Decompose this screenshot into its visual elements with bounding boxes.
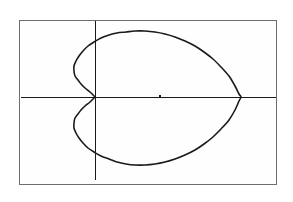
curve-equation-label: r = a(1 + cos θ) bbox=[0, 0, 1, 1]
calculator-screen-frame bbox=[19, 20, 277, 185]
screen-description: Graphing calculator plot window bbox=[0, 0, 1, 1]
screenshot-root: r = a(1 + cos θ) Graphing calculator plo… bbox=[0, 0, 293, 202]
